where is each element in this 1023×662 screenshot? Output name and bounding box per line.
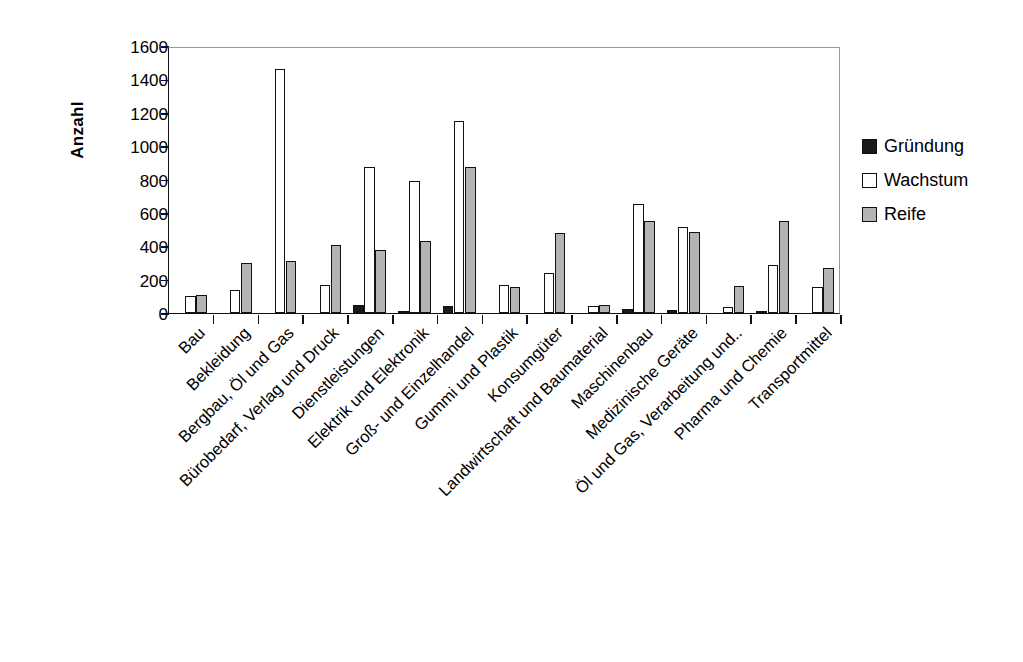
legend-label: Gründung [884, 137, 964, 155]
x-axis-labels: BauBekleidungBergbau, Öl und GasBürobeda… [0, 0, 1023, 662]
legend-swatch-icon [862, 207, 877, 222]
legend-entry: Gründung [862, 129, 1012, 163]
legend-entry: Wachstum [862, 163, 1012, 197]
x-tick-label: Bergbau, Öl und Gas [3, 324, 298, 619]
legend-label: Wachstum [884, 171, 968, 189]
legend-entry: Reife [862, 197, 1012, 231]
legend-label: Reife [884, 205, 926, 223]
bar-chart-figure: Anzahl 02004006008001000120014001600 Bau… [0, 0, 1023, 662]
legend-swatch-icon [862, 139, 877, 154]
legend-swatch-icon [862, 173, 877, 188]
legend: GründungWachstumReife [862, 129, 1012, 231]
